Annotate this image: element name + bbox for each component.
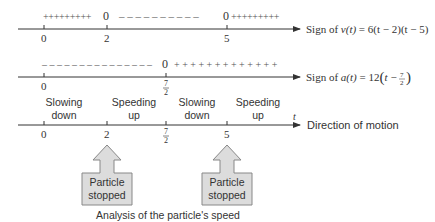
velocity-sign-label: Sign of v(t) = 6(t − 2)(t − 5): [306, 23, 429, 36]
tick-label-0: 0: [41, 32, 47, 44]
interval-1-line1: Slowing: [46, 96, 83, 108]
acceleration-sign-line: – – – – – – – – – – – – – – – 0 + + + + …: [18, 57, 411, 97]
svg-text:Particle: Particle: [209, 176, 244, 188]
svg-text:7: 7: [164, 127, 168, 136]
caption: Analysis of the particle's speed: [96, 209, 240, 221]
svg-text:7: 7: [400, 71, 404, 79]
interval-2-line1: Speeding: [112, 96, 157, 108]
svg-text:Particle: Particle: [89, 176, 124, 188]
velocity-sign-line: +++++++++ 0 – – – – – – – – – – 0 ++++++…: [18, 9, 429, 44]
interval-4-line2: up: [252, 109, 264, 121]
acceleration-sign-label: Sign of a(t) = 12(t −: [306, 69, 398, 86]
interval-1-line2: down: [51, 109, 76, 121]
interval-3-line1: Slowing: [179, 96, 216, 108]
svg-text:stopped: stopped: [88, 189, 126, 201]
svg-text:stopped: stopped: [208, 189, 246, 201]
interval-4-line1: Speeding: [236, 96, 281, 108]
frac-num: 7: [164, 79, 168, 88]
motion-line: Slowing down Speeding up Slowing down Sp…: [18, 96, 399, 145]
particle-stopped-callout-2: Particle stopped: [202, 145, 252, 205]
positive-signs-left: +++++++++: [43, 11, 92, 22]
svg-text:2: 2: [164, 136, 168, 145]
speed-analysis-diagram: +++++++++ 0 – – – – – – – – – – 0 ++++++…: [0, 0, 435, 222]
tick-label-5: 5: [224, 128, 230, 140]
zero-at-7-2: 0: [162, 57, 168, 71]
tick-label-0: 0: [41, 128, 47, 140]
tick-label-2: 2: [104, 128, 110, 140]
axis-variable-t: t: [293, 111, 296, 122]
particle-stopped-callout-1: Particle stopped: [82, 145, 132, 205]
tick-label-5: 5: [224, 32, 230, 44]
positive-signs: + + + + + + + + + + + + +: [174, 59, 278, 70]
tick-label-0: 0: [41, 80, 47, 92]
interval-2-line2: up: [128, 109, 140, 121]
frac-den: 2: [164, 88, 168, 97]
positive-signs-right: +++++++++: [231, 11, 280, 22]
negative-signs: – – – – – – – – – – – – – – –: [41, 59, 153, 70]
svg-text:): ): [406, 69, 411, 86]
zero-at-5: 0: [223, 9, 229, 23]
svg-text:2: 2: [400, 79, 404, 87]
interval-3-line2: down: [184, 109, 209, 121]
negative-signs: – – – – – – – – – –: [118, 10, 199, 22]
direction-of-motion-label: Direction of motion: [307, 119, 399, 131]
tick-label-2: 2: [104, 32, 110, 44]
zero-at-2: 0: [103, 9, 109, 23]
